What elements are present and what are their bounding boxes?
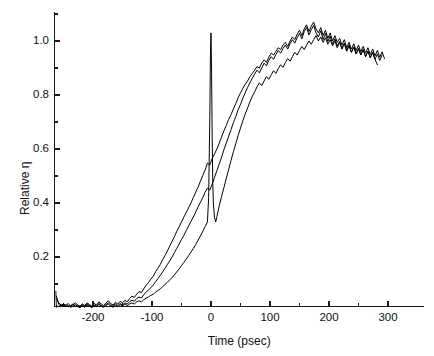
x-tick-label: 0	[188, 311, 234, 323]
y-tick-label: 0.6	[14, 142, 49, 154]
chart-canvas	[0, 0, 434, 356]
y-axis-title: Relative η	[18, 162, 32, 215]
ticks-group	[55, 14, 389, 307]
x-tick-label: 300	[365, 311, 411, 323]
trace-start-artifact	[56, 291, 57, 308]
y-tick-label: 1.0	[14, 34, 49, 46]
data-line-trace-fast	[56, 22, 384, 306]
x-axis-title: Time (psec)	[55, 334, 425, 348]
figure-container: 0.20.40.60.81.0 -200-1000100200300 Relat…	[0, 0, 434, 356]
data-series-group	[56, 22, 385, 308]
y-tick-label: 0.8	[14, 88, 49, 100]
x-tick-label: 100	[247, 311, 293, 323]
x-tick-label: -200	[70, 311, 116, 323]
x-tick-label: -100	[129, 311, 175, 323]
data-line-trace-middle	[56, 25, 382, 306]
x-tick-label: 200	[306, 311, 352, 323]
axes-group	[55, 12, 425, 307]
y-tick-label: 0.2	[14, 250, 49, 262]
